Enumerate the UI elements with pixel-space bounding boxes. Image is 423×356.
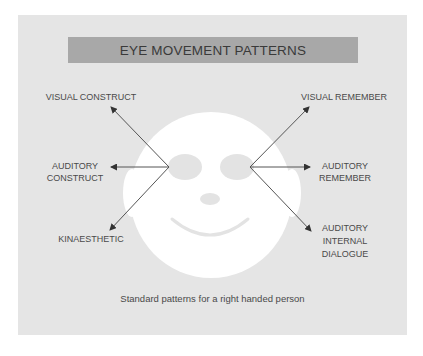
label-visual-construct-text: VISUAL CONSTRUCT — [46, 92, 137, 102]
nose-icon — [200, 193, 220, 205]
diagram-title: EYE MOVEMENT PATTERNS — [120, 43, 306, 58]
label-auditory-internal-line2: INTERNAL — [315, 235, 375, 248]
label-auditory-internal-line3: DIALOGUE — [315, 248, 375, 261]
label-auditory-internal-line1: AUDITORY — [315, 222, 375, 235]
label-kinaesthetic-text: KINAESTHETIC — [58, 234, 124, 244]
label-auditory-internal-dialogue: AUDITORY INTERNAL DIALOGUE — [315, 222, 375, 261]
label-kinaesthetic: KINAESTHETIC — [56, 233, 126, 245]
diagram-panel: EYE MOVEMENT PATTERNS VISUAL CONSTRUCT A… — [18, 15, 407, 335]
right-eye-icon — [220, 154, 254, 180]
label-visual-remember-text: VISUAL REMEMBER — [301, 92, 387, 102]
label-visual-remember: VISUAL REMEMBER — [296, 91, 392, 103]
label-auditory-construct: AUDITORY CONSTRUCT — [45, 160, 105, 184]
label-auditory-construct-line2: CONSTRUCT — [45, 172, 105, 184]
label-auditory-remember-line2: REMEMBER — [315, 172, 375, 184]
left-eye-icon — [168, 154, 202, 180]
label-auditory-remember-line1: AUDITORY — [315, 160, 375, 172]
diagram-title-banner: EYE MOVEMENT PATTERNS — [68, 37, 358, 63]
label-auditory-remember: AUDITORY REMEMBER — [315, 160, 375, 184]
diagram-caption: Standard patterns for a right handed per… — [18, 293, 407, 304]
label-visual-construct: VISUAL CONSTRUCT — [44, 91, 138, 103]
label-auditory-construct-line1: AUDITORY — [45, 160, 105, 172]
